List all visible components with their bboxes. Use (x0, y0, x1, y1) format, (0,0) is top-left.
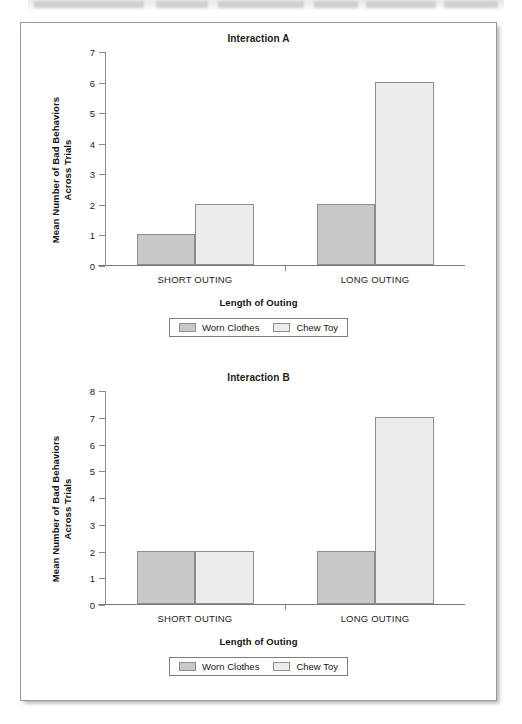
chart-b-y-tick (99, 578, 105, 579)
chart-a-y-tick (99, 83, 105, 84)
chart-a-y-tick (99, 205, 105, 206)
chart-b-y-tick-label: 1 (90, 573, 95, 584)
chart-b-y-tick-label: 6 (90, 439, 95, 450)
chart-a-x-tick (285, 266, 286, 271)
chart-b-y-axis-label-line1: Mean Number of Bad Behaviors (50, 436, 61, 582)
chart-a-y-tick-label: 0 (90, 261, 95, 272)
chart-b-legend-item-chew-toy[interactable]: Chew Toy (273, 661, 338, 672)
chart-b-y-tick-label: 3 (90, 519, 95, 530)
chart-a-axes: 01234567SHORT OUTINGLONG OUTING (105, 52, 465, 266)
chart-b-bar-long-outing-worn-clothes (317, 551, 376, 605)
chart-b-y-tick (99, 525, 105, 526)
chart-b-axes: 012345678SHORT OUTINGLONG OUTING (105, 391, 465, 605)
chart-a-x-category-label: SHORT OUTING (158, 274, 233, 285)
chart-b-legend-label-worn-clothes: Worn Clothes (202, 661, 259, 672)
chart-a-y-tick (99, 266, 105, 267)
chart-a-y-tick (99, 52, 105, 53)
chart-b-y-tick (99, 605, 105, 606)
chart-a-y-tick-label: 6 (90, 77, 95, 88)
chart-b-y-tick (99, 498, 105, 499)
chart-a-title: Interaction A (21, 29, 496, 44)
page-top-smudge-band (28, 0, 504, 11)
chart-a-legend-label-chew-toy: Chew Toy (296, 322, 338, 333)
chart-a-bar-long-outing-chew-toy (375, 82, 434, 265)
chart-a-x-axis-line (98, 265, 465, 266)
chart-a-y-axis-label-line1: Mean Number of Bad Behaviors (50, 97, 61, 243)
chart-a-x-axis-label: Length of Outing (21, 297, 496, 308)
page-root: Interaction A Mean Number of Bad Behavio… (0, 0, 522, 724)
chart-a-y-tick (99, 113, 105, 114)
chart-b-x-category-label: SHORT OUTING (158, 613, 233, 624)
chart-a-y-tick-label: 7 (90, 47, 95, 58)
chart-a-y-tick-label: 5 (90, 108, 95, 119)
chart-a-y-axis-line (105, 52, 106, 266)
chart-a-y-tick-label: 1 (90, 230, 95, 241)
chart-b-y-tick-label: 5 (90, 466, 95, 477)
chart-b-y-axis-label: Mean Number of Bad Behaviors Across Tria… (50, 405, 73, 613)
legend-swatch-chew-toy-icon (273, 323, 290, 332)
chart-b-y-tick-label: 0 (90, 600, 95, 611)
chart-b-y-tick (99, 552, 105, 553)
chart-a-legend-box: Worn Clothes Chew Toy (169, 318, 348, 337)
chart-a-legend-item-worn-clothes[interactable]: Worn Clothes (179, 322, 259, 333)
chart-b-bar-short-outing-worn-clothes (137, 551, 196, 605)
chart-b-y-tick-label: 4 (90, 493, 95, 504)
chart-b-x-axis-line (98, 604, 465, 605)
chart-b-legend: Worn Clothes Chew Toy (21, 657, 496, 676)
chart-interaction-b: Interaction B Mean Number of Bad Behavio… (21, 368, 496, 698)
chart-a-y-tick-label: 4 (90, 138, 95, 149)
chart-b-y-tick (99, 471, 105, 472)
legend-swatch-chew-toy-icon (273, 662, 290, 671)
chart-b-y-axis-label-line2: Across Trials (61, 405, 73, 613)
chart-interaction-a: Interaction A Mean Number of Bad Behavio… (21, 29, 496, 359)
chart-a-bar-short-outing-worn-clothes (137, 234, 196, 265)
chart-a-legend-item-chew-toy[interactable]: Chew Toy (273, 322, 338, 333)
chart-b-legend-label-chew-toy: Chew Toy (296, 661, 338, 672)
chart-a-y-tick-label: 2 (90, 199, 95, 210)
chart-a-y-tick-label: 3 (90, 169, 95, 180)
chart-a-y-axis-label: Mean Number of Bad Behaviors Across Tria… (50, 66, 73, 274)
chart-b-y-tick-label: 8 (90, 386, 95, 397)
chart-a-y-axis-label-line2: Across Trials (61, 66, 73, 274)
chart-b-y-tick-label: 7 (90, 412, 95, 423)
chart-b-y-tick (99, 391, 105, 392)
chart-a-bar-long-outing-worn-clothes (317, 204, 376, 265)
chart-a-legend-label-worn-clothes: Worn Clothes (202, 322, 259, 333)
chart-b-legend-box: Worn Clothes Chew Toy (169, 657, 348, 676)
chart-a-legend: Worn Clothes Chew Toy (21, 318, 496, 337)
chart-b-title: Interaction B (21, 368, 496, 383)
legend-swatch-worn-clothes-icon (179, 662, 196, 671)
chart-b-legend-item-worn-clothes[interactable]: Worn Clothes (179, 661, 259, 672)
chart-a-y-tick (99, 144, 105, 145)
chart-b-plot-area: Mean Number of Bad Behaviors Across Tria… (21, 391, 496, 627)
chart-b-x-axis-label: Length of Outing (21, 636, 496, 647)
chart-a-plot-area: Mean Number of Bad Behaviors Across Tria… (21, 52, 496, 288)
chart-b-bar-short-outing-chew-toy (195, 551, 254, 605)
chart-a-y-tick (99, 174, 105, 175)
chart-b-bar-long-outing-chew-toy (375, 417, 434, 604)
chart-b-x-category-label: LONG OUTING (341, 613, 410, 624)
legend-swatch-worn-clothes-icon (179, 323, 196, 332)
chart-a-x-category-label: LONG OUTING (341, 274, 410, 285)
chart-b-y-tick (99, 445, 105, 446)
chart-a-bar-short-outing-chew-toy (195, 204, 254, 265)
figure-frame: Interaction A Mean Number of Bad Behavio… (20, 22, 497, 701)
chart-a-y-tick (99, 235, 105, 236)
chart-b-y-tick (99, 418, 105, 419)
chart-b-y-tick-label: 2 (90, 546, 95, 557)
chart-b-y-axis-line (105, 391, 106, 605)
chart-b-x-tick (285, 605, 286, 610)
